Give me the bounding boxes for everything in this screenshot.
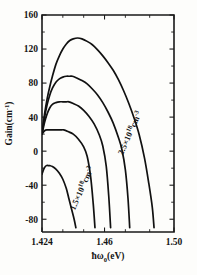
gain-curves (42, 38, 154, 228)
y-tick-label: 80 (29, 78, 39, 88)
x-tick-label: 1.424 (31, 237, 53, 247)
x-axis-title: ħω0(eV) (92, 251, 125, 263)
y-tick-label: 0 (33, 147, 38, 157)
y-tick-label: 120 (24, 44, 39, 54)
x-tick-label: 1.50 (166, 237, 183, 247)
annotation-2p5e18-text: 2.5×1018cm-3 (115, 108, 144, 156)
chart-canvas: -80-40040801201601.4241.461.50 2.5×1018c… (0, 0, 197, 275)
plot-frame (42, 15, 174, 232)
x-tick-label: 1.46 (96, 237, 113, 247)
y-axis-title: Gain(cm-1) (3, 102, 15, 146)
plot-axes (42, 15, 174, 232)
y-tick-label: -40 (25, 181, 38, 191)
tick-labels: -80-40040801201601.4241.461.50 (24, 10, 183, 247)
y-tick-label: 40 (29, 113, 39, 123)
y-axis-title-text: Gain(cm-1) (3, 102, 15, 146)
y-tick-label: 160 (24, 10, 39, 20)
annotation-2p5e18: 2.5×1018cm-3 (115, 108, 144, 156)
gain-spectrum-figure: -80-40040801201601.4241.461.50 2.5×1018c… (0, 0, 197, 275)
y-tick-label: -80 (25, 215, 38, 225)
gain-curve (42, 165, 76, 227)
